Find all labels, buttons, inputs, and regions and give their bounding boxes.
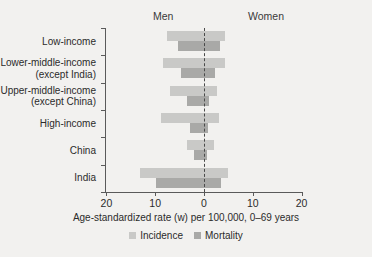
bar-incidence — [161, 113, 220, 123]
men-header-label: Men — [153, 10, 173, 22]
bar-incidence — [167, 31, 226, 41]
legend-label: Mortality — [205, 230, 243, 241]
x-axis-tick-label: 10 — [149, 197, 161, 209]
zero-reference-line — [204, 28, 205, 192]
x-axis-tick-label: 20 — [101, 197, 113, 209]
bar-mortality — [156, 178, 221, 188]
bar-incidence — [163, 58, 225, 68]
bar-incidence — [140, 168, 229, 178]
x-axis-tick — [204, 192, 205, 196]
chart-legend: IncidenceMortality — [0, 230, 372, 241]
bar-incidence — [170, 86, 216, 96]
chart-figure: Men Women Low-incomeLower-middle-income(… — [0, 0, 372, 257]
category-tick — [101, 165, 106, 166]
category-tick — [101, 192, 106, 193]
x-axis-tick-label: 10 — [247, 197, 259, 209]
legend-swatch — [194, 232, 201, 239]
x-axis-tick-label: 20 — [296, 197, 308, 209]
bar-mortality — [178, 41, 219, 51]
x-axis-tick — [302, 192, 303, 196]
legend-item: Mortality — [194, 230, 243, 241]
category-tick — [101, 83, 106, 84]
bar-incidence — [187, 140, 214, 150]
category-label: High-income — [40, 118, 96, 130]
category-tick — [101, 110, 106, 111]
bar-mortality — [190, 123, 208, 133]
category-tick — [101, 55, 106, 56]
x-axis-title: Age-standardized rate (w) per 100,000, 0… — [0, 212, 372, 223]
bar-mortality — [181, 68, 215, 78]
category-label-line: India — [74, 172, 96, 184]
category-label-line: China — [70, 145, 96, 157]
x-axis-tick-label: 0 — [201, 197, 207, 209]
category-label-line: Upper-middle-income — [0, 85, 96, 97]
category-label-line: (except China) — [0, 96, 96, 108]
category-label-line: (except India) — [0, 69, 96, 81]
x-axis-tick — [155, 192, 156, 196]
women-header-label: Women — [248, 10, 284, 22]
category-label: Low-income — [42, 36, 96, 48]
category-label-line: Low-income — [42, 36, 96, 48]
legend-swatch — [129, 232, 136, 239]
bar-mortality — [194, 150, 207, 160]
category-label-line: High-income — [40, 118, 96, 130]
category-label: Lower-middle-income(except India) — [0, 57, 96, 80]
bar-mortality — [187, 96, 209, 106]
category-tick — [101, 28, 106, 29]
category-label: Upper-middle-income(except China) — [0, 85, 96, 108]
category-label-line: Lower-middle-income — [0, 57, 96, 69]
x-axis-tick — [253, 192, 254, 196]
category-label: China — [70, 145, 96, 157]
category-label: India — [74, 172, 96, 184]
x-axis-tick — [106, 192, 107, 196]
category-tick — [101, 137, 106, 138]
legend-item: Incidence — [129, 230, 183, 241]
legend-label: Incidence — [140, 230, 183, 241]
